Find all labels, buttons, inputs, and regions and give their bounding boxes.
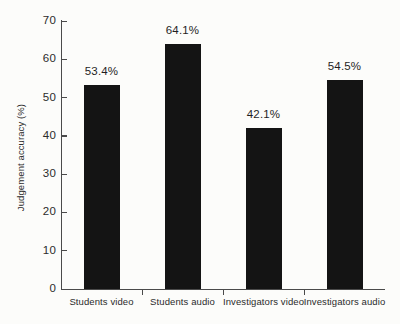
x-axis-tick-mark xyxy=(304,290,305,295)
bar-value-label: 42.1% xyxy=(224,108,304,120)
y-axis-tick-label: 70 xyxy=(26,14,56,28)
y-axis-tick-label: 10 xyxy=(26,244,56,258)
y-axis-tick-label-text: 60 xyxy=(30,52,56,64)
y-axis-tick-mark xyxy=(62,212,67,213)
y-axis-tick-mark xyxy=(62,59,67,60)
bar xyxy=(165,44,201,289)
bar-value-label: 64.1% xyxy=(143,24,223,36)
bar-value-label: 53.4% xyxy=(62,65,142,77)
y-axis-tick-label-text: 30 xyxy=(30,167,56,179)
bar-value-label: 54.5% xyxy=(305,60,385,72)
bar-chart: Judgement accuracy (%) 010203040506070 5… xyxy=(0,0,400,324)
y-axis-tick-label-text: 40 xyxy=(30,129,56,141)
y-axis-tick-label: 60 xyxy=(26,52,56,66)
y-axis-tick-label-text: 70 xyxy=(30,14,56,26)
y-axis-tick-mark xyxy=(62,97,67,98)
y-axis-tick-mark xyxy=(62,135,67,136)
y-axis-tick-mark xyxy=(62,21,67,22)
y-axis-tick-label: 30 xyxy=(26,167,56,181)
y-axis-tick-mark xyxy=(62,250,67,251)
x-axis-tick-mark xyxy=(142,290,143,295)
y-axis-tick-label-text: 20 xyxy=(30,205,56,217)
y-axis-tick-mark xyxy=(62,289,67,290)
bar xyxy=(246,128,282,289)
y-axis-tick-label: 50 xyxy=(26,91,56,105)
x-axis-tick-mark xyxy=(223,290,224,295)
bar xyxy=(84,85,120,289)
y-axis-tick-mark xyxy=(62,174,67,175)
y-axis-tick-label-text: 50 xyxy=(30,91,56,103)
x-axis-category-label: Investigators audio xyxy=(290,296,400,307)
y-axis-tick-label-text: 0 xyxy=(30,282,56,294)
y-axis-tick-label: 20 xyxy=(26,205,56,219)
y-axis-title: Judgement accuracy (%) xyxy=(15,83,26,233)
y-axis-tick-label: 0 xyxy=(26,282,56,296)
bar xyxy=(327,80,363,289)
y-axis-tick-label-text: 10 xyxy=(30,244,56,256)
y-axis-tick-label: 40 xyxy=(26,129,56,143)
